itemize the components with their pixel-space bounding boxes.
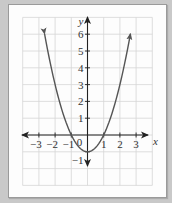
y-tick-label: 2 [78, 95, 84, 107]
y-tick-label: −1 [72, 154, 84, 166]
y-tick-label: 5 [78, 45, 84, 57]
x-tick-label: −2 [46, 138, 58, 150]
y-tick-label: 1 [78, 112, 84, 124]
tick-labels: −3−2−1123654321−10 [30, 28, 139, 166]
x-tick-label: 2 [117, 138, 123, 150]
x-tick-label: 3 [133, 138, 139, 150]
parabola-graph: −3−2−1123654321−10 x y [0, 0, 172, 203]
x-axis-label: x [152, 135, 158, 147]
x-tick-label: −3 [30, 138, 42, 150]
y-axis-label: y [78, 15, 84, 27]
y-tick-label: 3 [78, 79, 84, 91]
x-tick-label: −1 [62, 138, 74, 150]
y-tick-label: 6 [78, 28, 84, 40]
y-tick-label: 4 [78, 62, 84, 74]
